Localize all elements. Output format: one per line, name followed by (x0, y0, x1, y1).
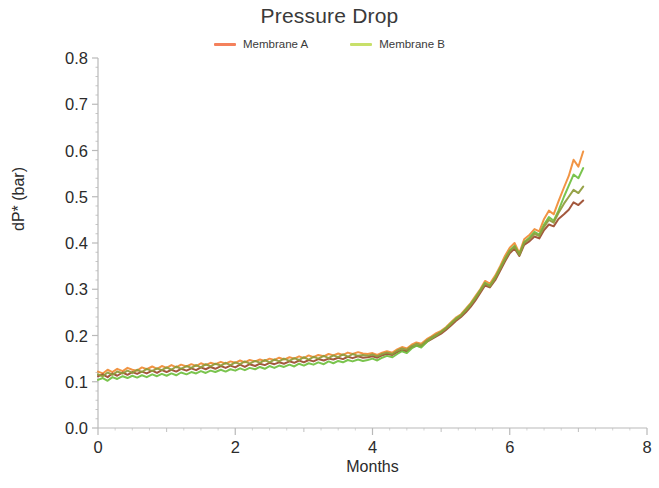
series-line-1 (98, 151, 583, 373)
data-series-group (98, 151, 583, 380)
series-line-2 (98, 200, 583, 377)
series-line-4 (98, 187, 583, 377)
axis-lines (92, 58, 647, 435)
plot-area (0, 0, 659, 488)
series-line-3 (98, 168, 583, 381)
chart-figure: Pressure Drop Membrane A Membrane B dP* … (0, 0, 659, 488)
